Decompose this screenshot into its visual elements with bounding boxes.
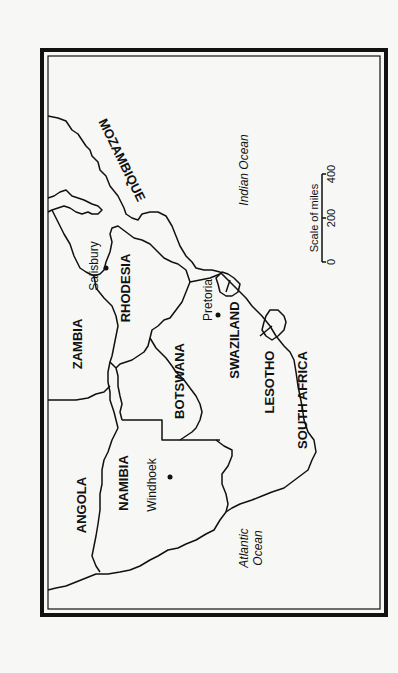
label-south-africa: SOUTH AFRICA xyxy=(295,351,310,449)
label-zambia: ZAMBIA xyxy=(70,318,85,369)
lesotho-outline xyxy=(262,310,286,340)
namibia-southafrica-border xyxy=(216,440,232,512)
scale-tick-label-0: 0 xyxy=(325,259,337,265)
scale-tick-label-200: 200 xyxy=(325,209,337,227)
label-angola: ANGOLA xyxy=(74,476,89,533)
swaziland-pointer xyxy=(226,280,230,292)
label-indian-ocean: Indian Ocean xyxy=(237,134,251,206)
label-swaziland: SWAZILAND xyxy=(227,301,242,378)
label-mozambique: MOZAMBIQUE xyxy=(96,116,149,204)
label-rhodesia: RHODESIA xyxy=(118,253,133,322)
label-salisbury: Salisbury xyxy=(87,241,101,290)
label-botswana: BOTSWANA xyxy=(172,342,187,418)
namibia-botswana-border xyxy=(122,420,220,440)
label-lesotho: LESOTHO xyxy=(262,351,277,414)
southern-africa-map: ANGOLA ZAMBIA NAMIBIA BOTSWANA RHODESIA … xyxy=(0,0,398,673)
angola-namibia-border xyxy=(92,428,118,572)
label-pretoria: Pretoria xyxy=(201,279,215,321)
salisbury-dot xyxy=(104,266,109,271)
windhoek-dot xyxy=(168,475,173,480)
pretoria-dot xyxy=(216,313,221,318)
lake-border xyxy=(48,190,102,214)
country-labels: ANGOLA ZAMBIA NAMIBIA BOTSWANA RHODESIA … xyxy=(70,116,310,533)
caprivi-strip-south xyxy=(116,368,122,420)
label-namibia: NAMIBIA xyxy=(116,455,131,511)
label-windhoek: Windhoek xyxy=(145,457,159,511)
scale-bar: Scale of miles 0 200 400 xyxy=(308,165,337,265)
label-atlantic-line2: Ocean xyxy=(251,530,265,566)
label-atlantic-line1: Atlantic xyxy=(237,528,251,568)
scale-title: Scale of miles xyxy=(308,183,320,252)
scale-tick-label-400: 400 xyxy=(325,165,337,183)
zambia-angola-border xyxy=(48,386,110,400)
city-labels: Windhoek Salisbury Pretoria xyxy=(87,241,215,511)
